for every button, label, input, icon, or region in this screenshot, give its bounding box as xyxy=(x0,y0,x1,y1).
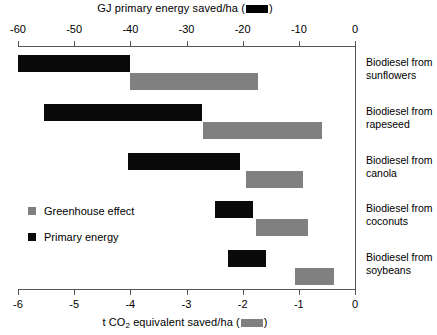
axis-tick xyxy=(18,289,19,295)
greenhouse-effect-swatch-icon xyxy=(28,207,36,215)
top-axis-title-text-end: ) xyxy=(269,2,273,14)
category-label-line: coconuts xyxy=(366,215,437,228)
axis-tick xyxy=(74,289,75,295)
bar-primary-energy xyxy=(228,250,266,267)
category-label-line: sunflowers xyxy=(366,69,437,82)
top-axis-title: GJ primary energy saved/ha () xyxy=(0,2,370,14)
legend-item-greenhouse-effect: Greenhouse effect xyxy=(28,205,134,217)
category-label: Biodiesel fromsunflowers xyxy=(366,56,437,82)
bottom-axis-title: t CO2 equivalent saved/ha () xyxy=(0,316,370,330)
legend: Greenhouse effect Primary energy xyxy=(28,205,134,257)
category-label: Biodiesel fromcanola xyxy=(366,154,437,180)
axis-tick-label: -40 xyxy=(110,23,150,35)
bar-greenhouse-effect xyxy=(246,171,303,188)
legend-label-greenhouse-effect: Greenhouse effect xyxy=(44,205,134,217)
category-label-line: soybeans xyxy=(366,264,437,277)
bar-primary-energy xyxy=(215,201,254,218)
category-label-line: Biodiesel from xyxy=(366,105,437,118)
primary-energy-swatch-icon xyxy=(28,233,36,241)
zero-axis-line xyxy=(355,46,356,290)
axis-tick-label: -10 xyxy=(279,23,319,35)
bottom-axis-title-text-end: ) xyxy=(264,316,268,328)
axis-tick-label: -30 xyxy=(167,23,207,35)
category-label-line: Biodiesel from xyxy=(366,251,437,264)
bottom-axis-title-suffix: equivalent saved/ha ( xyxy=(130,316,240,328)
bottom-axis-title-prefix: t CO xyxy=(102,316,125,328)
category-label: Biodiesel fromsoybeans xyxy=(366,251,437,277)
category-label-line: canola xyxy=(366,167,437,180)
biodiesel-savings-chart: GJ primary energy saved/ha () -60-50-40-… xyxy=(0,0,437,335)
greenhouse-effect-swatch-icon xyxy=(241,319,263,327)
category-label: Biodiesel fromcoconuts xyxy=(366,202,437,228)
axis-tick-label: -20 xyxy=(223,23,263,35)
category-label: Biodiesel fromrapeseed xyxy=(366,105,437,131)
bar-greenhouse-effect xyxy=(295,268,334,285)
top-axis-title-text: GJ primary energy saved/ha ( xyxy=(97,2,245,14)
axis-tick-label: -2 xyxy=(223,298,263,310)
axis-tick xyxy=(130,289,131,295)
axis-tick-label: -5 xyxy=(54,298,94,310)
bar-primary-energy xyxy=(44,104,201,121)
category-label-line: Biodiesel from xyxy=(366,202,437,215)
axis-tick xyxy=(355,289,356,295)
axis-tick-label: -50 xyxy=(54,23,94,35)
axis-tick-label: -1 xyxy=(279,298,319,310)
axis-tick-label: -4 xyxy=(110,298,150,310)
category-label-line: Biodiesel from xyxy=(366,56,437,69)
category-labels: Biodiesel fromsunflowersBiodiesel fromra… xyxy=(360,46,437,290)
bar-greenhouse-effect xyxy=(130,73,257,90)
primary-energy-swatch-icon xyxy=(246,5,268,13)
axis-tick-label: -60 xyxy=(0,23,38,35)
axis-tick xyxy=(299,289,300,295)
axis-tick-label: -3 xyxy=(167,298,207,310)
axis-tick xyxy=(187,289,188,295)
axis-tick-label: -6 xyxy=(0,298,38,310)
bar-greenhouse-effect xyxy=(256,219,308,236)
category-label-line: rapeseed xyxy=(366,118,437,131)
legend-item-primary-energy: Primary energy xyxy=(28,231,134,243)
axis-tick-label: 0 xyxy=(335,298,375,310)
axis-tick xyxy=(243,289,244,295)
bar-primary-energy xyxy=(128,153,240,170)
category-label-line: Biodiesel from xyxy=(366,154,437,167)
axis-tick-label: 0 xyxy=(335,23,375,35)
bar-primary-energy xyxy=(18,55,130,72)
legend-label-primary-energy: Primary energy xyxy=(44,231,119,243)
bar-greenhouse-effect xyxy=(203,122,322,139)
